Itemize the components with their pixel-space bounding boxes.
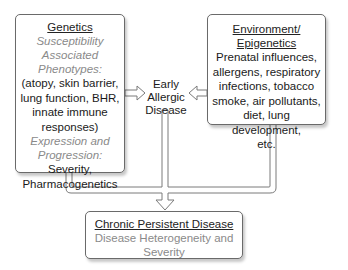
environment-body-line: infections, tobacco [208, 79, 325, 94]
genetics-body-line: (atopy, skin barrier, [16, 76, 124, 91]
genetics-subtitle: Phenotypes: [16, 62, 124, 76]
genetics-subtitle: Associated [16, 48, 124, 62]
environment-body-line: allergens, respiratory [208, 65, 325, 80]
environment-title: Epigenetics [208, 36, 325, 50]
chronic-body-line: Disease Heterogeneity and [86, 231, 242, 245]
genetics-subtitle: Expression and [16, 134, 124, 148]
environment-body-line: smoke, air pollutants, [208, 94, 325, 109]
genetics-footer-line: Pharmacogenetics [16, 177, 124, 192]
early-label-line: Disease [134, 104, 198, 117]
genetics-title: Genetics [16, 20, 124, 34]
chronic-title: Chronic Persistent Disease [86, 217, 242, 231]
genetics-body-line: responses) [16, 120, 124, 135]
genetics-footer-line: Severity, [16, 162, 124, 177]
genetics-subtitle: Progression: [16, 148, 124, 162]
genetics-box: Genetics Susceptibility Associated Pheno… [15, 14, 125, 173]
environment-body-line: diet, lung development, [208, 108, 325, 137]
genetics-body-line: lung function, BHR, [16, 91, 124, 106]
environment-body-line: etc. [208, 137, 325, 152]
chronic-disease-box: Chronic Persistent Disease Disease Heter… [85, 211, 243, 259]
environment-title: Environment/ [208, 22, 325, 36]
environment-box: Environment/ Epigenetics Prenatal influe… [207, 14, 326, 125]
environment-body-line: Prenatal influences, [208, 50, 325, 65]
early-allergic-disease-label: Early Allergic Disease [134, 78, 198, 117]
genetics-subtitle: Susceptibility [16, 34, 124, 48]
early-label-line: Allergic [134, 91, 198, 104]
chronic-body-line: Severity [86, 245, 242, 259]
early-label-line: Early [134, 78, 198, 91]
genetics-body-line: innate immune [16, 105, 124, 120]
